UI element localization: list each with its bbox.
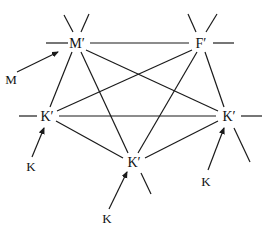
edge-f-kleft (57, 50, 192, 111)
arrow-kright (208, 128, 224, 170)
node-k-prime-bottom: K′ (127, 155, 140, 170)
stub-m-upright (81, 14, 89, 32)
input-label-k-bottom: K (102, 211, 112, 226)
stub-m-upleft (64, 15, 73, 32)
edge-m-kleft (50, 52, 72, 107)
edge-kleft-kbottom (56, 121, 123, 158)
input-label-m: M (5, 72, 17, 87)
input-labels: M K K K (5, 72, 211, 226)
input-label-k-left: K (26, 159, 36, 174)
stub-kbottom-down (141, 173, 151, 194)
edge-m-kright (86, 50, 218, 111)
arrow-m (17, 52, 58, 72)
stub-kright-down (234, 128, 250, 162)
input-arrows (17, 52, 224, 209)
node-m-prime: M′ (69, 36, 85, 51)
edge-f-kright (205, 52, 224, 107)
graph-diagram: M′ F′ K′ K′ K′ M K K K (0, 0, 269, 229)
node-k-prime-right: K′ (222, 109, 235, 124)
edges (50, 43, 224, 158)
node-f-prime: F′ (196, 36, 207, 51)
edge-f-kbottom (138, 52, 197, 153)
stub-f-upright (206, 14, 217, 32)
node-k-prime-left: K′ (40, 109, 53, 124)
edge-m-kbottom (81, 52, 128, 153)
arrow-kbottom (109, 172, 127, 209)
input-label-k-right: K (201, 174, 211, 189)
arrow-kleft (32, 128, 44, 157)
stub-f-upleft (188, 14, 196, 32)
edge-kright-kbottom (145, 121, 218, 158)
